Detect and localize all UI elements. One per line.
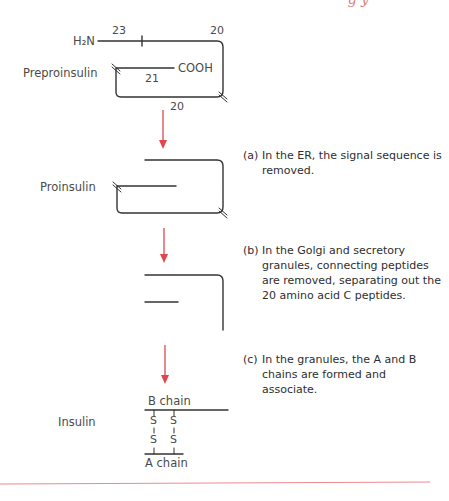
caption-tag: (c)	[243, 352, 258, 367]
amine-terminus: H₂N	[73, 34, 95, 48]
stage-label-insulin: Insulin	[58, 415, 96, 429]
b-chain-label: B chain	[148, 394, 191, 408]
sulfur-a2: S	[170, 433, 177, 446]
sulfur-b1: S	[150, 414, 157, 427]
caption-tag: (a)	[243, 148, 258, 163]
b-segment-count: 20	[210, 24, 224, 37]
carboxyl-terminus: COOH	[178, 61, 213, 75]
sulfur-b2: S	[170, 414, 177, 427]
caption-a: (a) In the ER, the signal sequence is re…	[243, 148, 443, 178]
caption-tag: (b)	[243, 243, 259, 258]
a-chain-label: A chain	[145, 456, 188, 470]
stage-label-preproinsulin: Preproinsulin	[23, 66, 98, 80]
c-peptide-count: 20	[170, 100, 184, 113]
caption-c: (c) In the granules, the A and B chains …	[243, 352, 443, 397]
caption-text: In the ER, the signal sequence is remove…	[243, 148, 443, 178]
a-segment-count: 21	[145, 72, 159, 85]
section-divider	[0, 482, 430, 484]
signal-count: 23	[112, 24, 126, 37]
caption-text: In the Golgi and secretory granules, con…	[243, 243, 443, 303]
proinsulin-chain	[117, 160, 223, 213]
caption-text: In the granules, the A and B chains are …	[243, 352, 443, 397]
sulfur-a1: S	[150, 433, 157, 446]
caption-b: (b) In the Golgi and secretory granules,…	[243, 243, 443, 303]
stage-label-proinsulin: Proinsulin	[40, 180, 96, 194]
